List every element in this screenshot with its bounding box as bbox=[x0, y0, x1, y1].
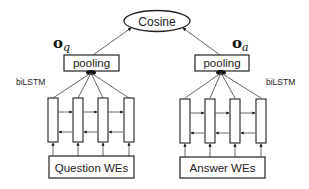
edge-oa-to-cosine bbox=[183, 28, 220, 55]
answer-lstm-cell-2 bbox=[205, 99, 215, 143]
edge-oq-to-cosine bbox=[93, 28, 131, 55]
question-pooling-label: pooling bbox=[73, 57, 110, 69]
question-lstm-cell-3 bbox=[98, 98, 108, 142]
answer-wes-label: Answer WEs bbox=[190, 162, 256, 174]
question-pool-junction bbox=[86, 70, 96, 75]
question-branch: pooling biLSTM Question WEs bbox=[16, 55, 134, 178]
question-lstm-cell-4 bbox=[124, 98, 134, 142]
answer-pool-junction bbox=[216, 70, 226, 75]
answer-lstm-cell-1 bbox=[180, 99, 190, 143]
answer-branch: pooling biLSTM Answer WEs bbox=[180, 55, 295, 178]
cosine-node: Cosine bbox=[124, 11, 190, 32]
qa-lstm-diagram: Cosine oq oa pooling biLSTM bbox=[0, 0, 309, 189]
question-lstm-cell-1 bbox=[48, 98, 58, 142]
answer-pooling-label: pooling bbox=[203, 57, 240, 69]
answer-lstm-cell-3 bbox=[230, 99, 240, 143]
question-wes-label: Question WEs bbox=[55, 162, 129, 174]
answer-lstm-cell-4 bbox=[256, 99, 266, 143]
cosine-label: Cosine bbox=[138, 15, 176, 29]
oa-symbol: oa bbox=[232, 34, 249, 54]
question-lstm-cell-2 bbox=[73, 98, 83, 142]
question-bilstm-label: biLSTM bbox=[16, 77, 45, 87]
answer-bilstm-label: biLSTM bbox=[266, 77, 295, 87]
oq-symbol: oq bbox=[53, 34, 70, 54]
